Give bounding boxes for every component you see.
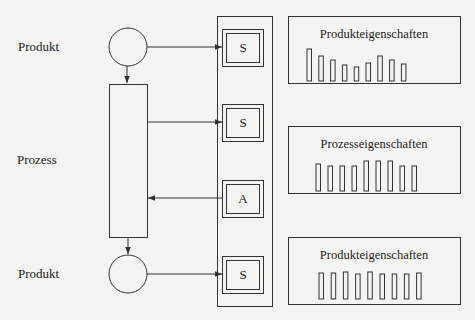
- property-bar: [316, 164, 321, 191]
- panel-product-properties-input: Produkteigenschaften: [289, 17, 461, 84]
- sensor-box-3-letter: S: [239, 267, 246, 282]
- property-bar: [390, 60, 395, 81]
- property-bar: [388, 161, 393, 191]
- property-bar: [368, 272, 373, 299]
- sensor-box-2-letter: S: [239, 115, 246, 130]
- property-bar: [352, 166, 357, 191]
- panel-1-title: Produkteigenschaften: [320, 27, 429, 41]
- property-bar: [364, 161, 369, 191]
- process-control-diagram: Produkt Prozess Produkt S S A S Produkte: [0, 0, 475, 320]
- property-bar: [401, 64, 406, 81]
- panel-3-title: Produkteigenschaften: [320, 248, 429, 262]
- property-bar: [380, 274, 385, 299]
- sensor-box-1: S: [223, 30, 264, 67]
- label-product-input: Produkt: [18, 39, 60, 54]
- product-output-node: [109, 255, 147, 293]
- property-bar: [412, 166, 417, 191]
- panel-2-title: Prozesseigenschaften: [321, 137, 429, 151]
- panel-product-properties-output: Produkteigenschaften: [289, 238, 461, 305]
- property-bar: [404, 274, 409, 299]
- sensor-box-3: S: [223, 257, 264, 294]
- actuator-box: A: [223, 181, 264, 218]
- process-block: [110, 85, 148, 238]
- panel-1-bars: [307, 49, 406, 81]
- property-bar: [376, 161, 381, 191]
- actuator-box-letter: A: [238, 191, 248, 206]
- property-bar: [328, 166, 333, 191]
- property-bar: [366, 63, 371, 81]
- sensor-box-1-letter: S: [239, 40, 246, 55]
- property-bar: [354, 67, 359, 81]
- property-bar: [392, 274, 397, 299]
- property-bar: [331, 60, 336, 81]
- property-bar: [356, 274, 361, 299]
- panel-3-bars: [319, 272, 421, 299]
- property-bar: [319, 56, 324, 81]
- property-bar: [331, 273, 336, 299]
- panel-2-bars: [316, 161, 417, 191]
- property-bar: [342, 65, 347, 81]
- property-bar: [417, 273, 422, 299]
- label-process: Prozess: [17, 152, 57, 167]
- property-bar: [378, 56, 383, 81]
- property-bar: [319, 273, 324, 299]
- property-bar: [343, 272, 348, 299]
- label-product-output: Produkt: [18, 266, 60, 281]
- panel-process-properties: Prozesseigenschaften: [289, 127, 461, 194]
- sensor-box-2: S: [223, 105, 264, 142]
- property-bar: [400, 166, 405, 191]
- product-input-node: [109, 28, 147, 66]
- property-bar: [340, 166, 345, 191]
- property-bar: [307, 49, 312, 81]
- measurement-container: [218, 17, 273, 307]
